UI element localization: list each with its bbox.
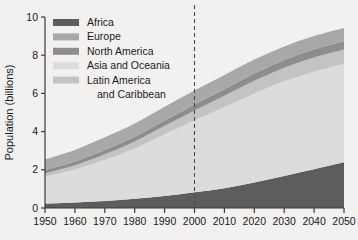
x-tick-label-2010: 2010 bbox=[213, 215, 237, 227]
y-tick-label-0: 0 bbox=[32, 202, 38, 214]
legend-label-europe: Europe bbox=[87, 30, 121, 42]
legend-label-and-caribbean: and Caribbean bbox=[97, 88, 166, 100]
x-tick-label-2050: 2050 bbox=[332, 215, 356, 227]
y-tick-label-8: 8 bbox=[32, 49, 38, 61]
legend-swatch-latin-america bbox=[53, 77, 79, 84]
x-tick-label-1990: 1990 bbox=[153, 215, 177, 227]
legend-label-africa: Africa bbox=[87, 16, 114, 28]
y-tick-label-4: 4 bbox=[32, 125, 38, 137]
legend-swatch-africa bbox=[53, 19, 79, 26]
legend-label-latin-america: Latin America bbox=[87, 74, 151, 86]
x-tick-label-2040: 2040 bbox=[302, 215, 326, 227]
y-axis-title: Population (billions) bbox=[3, 65, 15, 161]
legend-label-asia-and-oceania: Asia and Oceania bbox=[87, 59, 170, 71]
y-tick-label-10: 10 bbox=[26, 11, 38, 23]
x-tick-label-2020: 2020 bbox=[243, 215, 267, 227]
legend-swatch-europe bbox=[53, 33, 79, 40]
legend-swatch-asia-and-oceania bbox=[53, 62, 79, 69]
x-tick-label-1970: 1970 bbox=[93, 215, 117, 227]
x-tick-label-2000: 2000 bbox=[183, 215, 207, 227]
x-tick-label-1980: 1980 bbox=[123, 215, 147, 227]
legend-swatch-north-america bbox=[53, 48, 79, 55]
y-tick-label-6: 6 bbox=[32, 87, 38, 99]
legend-label-north-america: North America bbox=[87, 45, 154, 57]
legend: AfricaEuropeNorth AmericaAsia and Oceani… bbox=[53, 16, 170, 100]
x-tick-label-1950: 1950 bbox=[33, 215, 57, 227]
y-tick-label-2: 2 bbox=[32, 163, 38, 175]
x-tick-label-2030: 2030 bbox=[273, 215, 297, 227]
chart-canvas: 0246810195019601970198019902000201020202… bbox=[0, 0, 358, 240]
x-tick-label-1960: 1960 bbox=[63, 215, 87, 227]
population-area-chart: 0246810195019601970198019902000201020202… bbox=[0, 0, 358, 240]
